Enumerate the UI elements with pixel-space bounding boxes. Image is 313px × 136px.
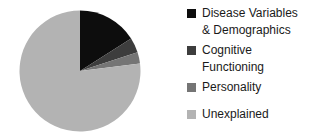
legend-swatch-disease-variables-demographics <box>187 9 196 18</box>
legend-swatch-personality <box>187 83 196 92</box>
legend: Disease Variables & Demographics Cogniti… <box>187 5 311 126</box>
legend-item-cognitive-functioning: Cognitive Functioning <box>187 42 311 76</box>
legend-swatch-cognitive-functioning <box>187 46 196 55</box>
legend-item-disease-variables-demographics: Disease Variables & Demographics <box>187 5 311 39</box>
legend-swatch-unexplained <box>187 110 196 119</box>
pie-chart <box>0 0 160 136</box>
legend-label-unexplained: Unexplained <box>202 106 308 123</box>
pie-chart-figure: Disease Variables & Demographics Cogniti… <box>0 0 313 136</box>
legend-label-personality: Personality <box>202 79 308 96</box>
legend-item-personality: Personality <box>187 79 311 96</box>
legend-label-cognitive-functioning: Cognitive Functioning <box>202 42 308 76</box>
legend-item-unexplained: Unexplained <box>187 106 311 123</box>
legend-label-disease-variables-demographics: Disease Variables & Demographics <box>202 5 308 39</box>
